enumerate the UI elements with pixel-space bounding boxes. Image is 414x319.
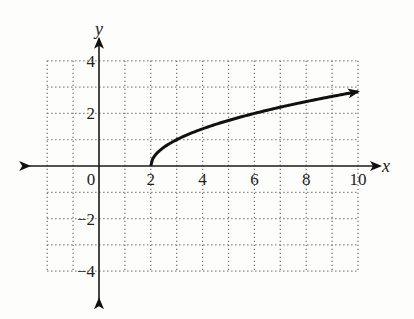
y-tick-label: 4	[87, 52, 96, 71]
y-tick-label: 2	[87, 104, 96, 123]
y-tick-label: −2	[77, 210, 95, 229]
x-tick-label: 10	[350, 170, 367, 189]
x-tick-label: 8	[302, 170, 311, 189]
x-tick-label: 4	[198, 170, 207, 189]
x-tick-label: 6	[250, 170, 259, 189]
x-tick-label: 2	[147, 170, 156, 189]
x-tick-label: 0	[87, 170, 96, 189]
x-axis-label: x	[381, 156, 390, 176]
chart-canvas: xy 024681042−2−4	[0, 0, 414, 319]
y-tick-label: −4	[77, 262, 96, 281]
y-axis-label: y	[93, 19, 103, 39]
